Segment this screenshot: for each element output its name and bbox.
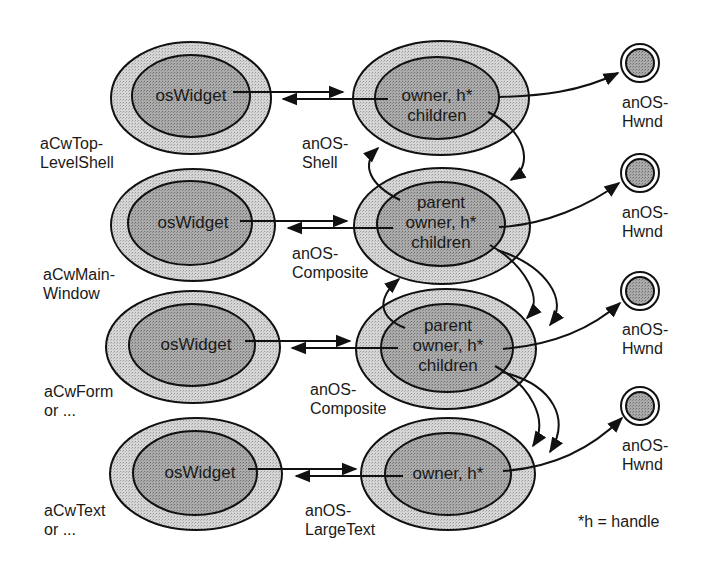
handle-links	[498, 73, 622, 471]
hwnd-node-3	[621, 272, 659, 310]
os-label-4: anOS- LargeText	[305, 501, 375, 539]
hwnd-label-4: anOS- Hwnd	[622, 436, 668, 474]
os-fields-2: parent owner, h* children	[391, 193, 491, 253]
cw-label-2: aCwMain- Window	[43, 265, 115, 303]
hwnd-label-2: anOS- Hwnd	[622, 203, 668, 241]
os-fields-3: parent owner, h* children	[398, 316, 498, 376]
hwnd-label-1: anOS- Hwnd	[622, 93, 668, 131]
cw-label-3: aCwForm or ...	[44, 382, 113, 420]
os-fields-4: owner, h*	[398, 464, 498, 484]
oswidget-text-2: osWidget	[148, 213, 238, 233]
cw-label-4: aCwText or ...	[44, 501, 105, 539]
hwnd-node-1	[621, 44, 659, 82]
oswidget-text-4: osWidget	[155, 463, 245, 483]
os-fields-1: owner, h* children	[387, 86, 487, 126]
hwnd-node-4	[621, 387, 659, 425]
hwnd-node-2	[621, 154, 659, 192]
legend-handle: *h = handle	[578, 512, 659, 531]
cw-label-1: aCwTop- LevelShell	[40, 134, 114, 172]
oswidget-text-3: osWidget	[151, 335, 241, 355]
os-label-1: anOS- Shell	[302, 134, 348, 172]
os-label-3: anOS- Composite	[310, 380, 386, 418]
oswidget-text-1: osWidget	[146, 86, 236, 106]
hwnd-label-3: anOS- Hwnd	[622, 320, 668, 358]
os-label-2: anOS- Composite	[292, 244, 368, 282]
